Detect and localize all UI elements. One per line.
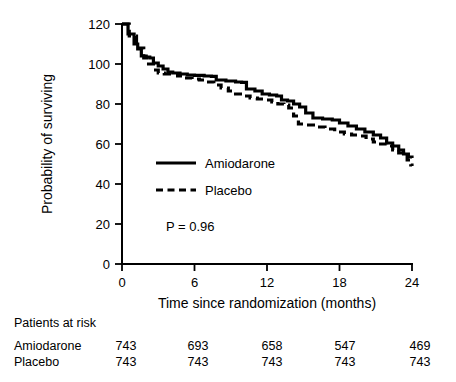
legend-label-amiodarone: Amiodarone	[205, 156, 275, 171]
y-axis-title: Probability of surviving	[39, 74, 55, 214]
curve-amiodarone	[122, 24, 412, 158]
risk-value-amiodarone-0: 743	[116, 339, 137, 353]
risk-value-amiodarone-12: 658	[262, 339, 283, 353]
x-tick-label-24: 24	[405, 275, 419, 290]
risk-table-heading: Patients at risk	[14, 316, 97, 330]
risk-value-placebo-0: 743	[116, 355, 137, 369]
risk-value-amiodarone-18: 547	[335, 339, 356, 353]
x-tick-label-6: 6	[191, 275, 198, 290]
chart-svg: 120 100 80 60 40 20 0 0 6 12 18 24 Time …	[0, 0, 456, 382]
y-tick-label-20: 20	[96, 217, 110, 232]
risk-value-amiodarone-24: 469	[410, 339, 431, 353]
x-tick-label-12: 12	[260, 275, 274, 290]
risk-value-amiodarone-6: 693	[188, 339, 209, 353]
y-axis-ticks	[115, 24, 122, 264]
patients-at-risk-table: Patients at risk Amiodarone 743 693 658 …	[14, 316, 430, 369]
x-tick-label-0: 0	[118, 275, 125, 290]
y-tick-label-100: 100	[88, 57, 110, 72]
y-tick-label-60: 60	[96, 137, 110, 152]
p-value-annotation: P = 0.96	[166, 219, 215, 234]
risk-row-label-amiodarone: Amiodarone	[14, 339, 81, 353]
legend-label-placebo: Placebo	[205, 183, 252, 198]
risk-value-placebo-6: 743	[188, 355, 209, 369]
y-tick-label-120: 120	[88, 17, 110, 32]
survival-chart-figure: 120 100 80 60 40 20 0 0 6 12 18 24 Time …	[0, 0, 456, 382]
risk-table-row-placebo: Placebo 743 743 743 743 743	[14, 355, 430, 369]
risk-value-placebo-18: 743	[335, 355, 356, 369]
y-tick-label-0: 0	[103, 257, 110, 272]
y-tick-label-80: 80	[96, 97, 110, 112]
x-tick-label-18: 18	[332, 275, 346, 290]
chart-legend: Amiodarone Placebo	[156, 156, 275, 198]
risk-value-placebo-24: 743	[410, 355, 431, 369]
y-tick-label-40: 40	[96, 177, 110, 192]
x-axis-ticks	[122, 264, 412, 271]
risk-table-row-amiodarone: Amiodarone 743 693 658 547 469	[14, 339, 430, 353]
risk-value-placebo-12: 743	[262, 355, 283, 369]
x-axis-title: Time since randomization (months)	[158, 295, 376, 311]
risk-row-label-placebo: Placebo	[14, 355, 59, 369]
